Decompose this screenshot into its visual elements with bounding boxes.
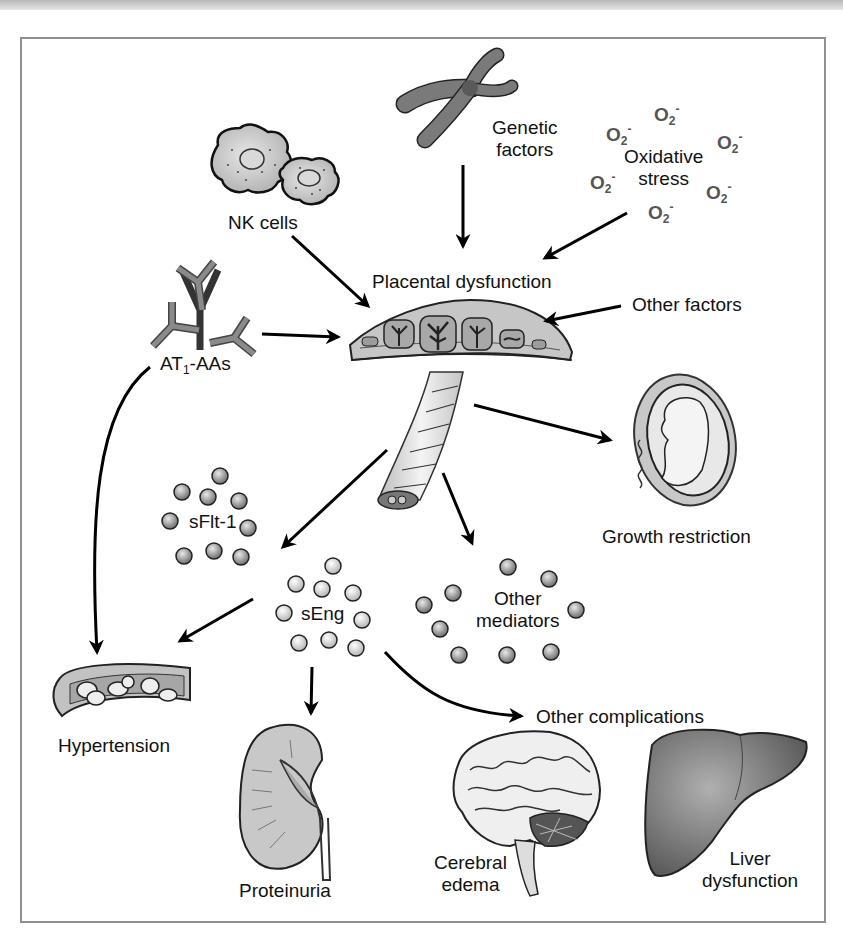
label-growth-restriction: Growth restriction: [602, 526, 751, 548]
arrow-nk-to-placenta: [292, 236, 368, 306]
label-seng: sEng: [301, 603, 344, 625]
label-genetic-factors: Genetic factors: [492, 117, 557, 161]
arrow-placenta-to-sflt1: [283, 450, 387, 547]
label-line: edema: [434, 874, 507, 896]
label-line: dysfunction: [702, 870, 798, 892]
superoxide-icon: O2-: [648, 200, 673, 226]
superoxide-icon: O2-: [606, 122, 631, 148]
label-line: Cerebral: [434, 852, 507, 874]
arrow-seng-to-hypertension: [180, 599, 253, 641]
pathway-arrows: [95, 165, 627, 716]
label-sflt1: sFlt-1: [189, 511, 237, 533]
label-line: stress: [624, 168, 703, 190]
label-line: mediators: [476, 610, 559, 632]
label-proteinuria: Proteinuria: [239, 880, 331, 902]
arrow-at1-to-placenta: [262, 334, 338, 337]
placenta-icon: [350, 300, 572, 360]
nk-cells-icon: [212, 125, 339, 205]
label-oxidative-stress: Oxidative stress: [624, 146, 703, 190]
superoxide-icon: O2-: [706, 180, 731, 206]
label-other-complications: Other complications: [536, 706, 704, 728]
arrow-oxidative-to-placenta: [545, 213, 627, 258]
arrow-seng-to-proteinuria: [311, 667, 312, 713]
arrow-seng-to-other-complications: [385, 652, 521, 716]
label-line: Oxidative: [624, 146, 703, 168]
arrow-at1-to-hypertension: [95, 367, 150, 652]
label-placental-dysfunction: Placental dysfunction: [372, 271, 552, 293]
label-cerebral-edema: Cerebral edema: [434, 852, 507, 896]
blood-vessel-icon: [53, 664, 190, 716]
label-line: Other: [476, 588, 559, 610]
superoxide-icon: O2-: [590, 170, 615, 196]
fetus-icon: [622, 365, 747, 515]
label-other-mediators: Other mediators: [476, 588, 559, 632]
label-nk-cells: NK cells: [228, 212, 298, 234]
label-line: Genetic: [492, 117, 557, 139]
arrow-placenta-to-growth: [474, 405, 610, 440]
label-liver-dysfunction: Liver dysfunction: [702, 848, 798, 892]
label-hypertension: Hypertension: [58, 735, 170, 757]
superoxide-icon: O2-: [654, 102, 679, 128]
arrow-other-factors-to-placenta: [546, 306, 621, 321]
label-other-factors: Other factors: [632, 294, 742, 316]
kidney-icon: [240, 725, 330, 880]
arrow-placenta-to-other-mediators: [443, 473, 472, 543]
label-line: Liver: [702, 848, 798, 870]
superoxide-icon: O2-: [717, 130, 742, 156]
label-at1-aas: AT1-AAs: [160, 353, 231, 381]
label-line: factors: [492, 139, 557, 161]
